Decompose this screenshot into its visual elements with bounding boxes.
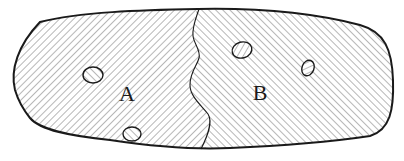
- region-b-label: B: [253, 82, 268, 104]
- region-a-label: A: [119, 83, 135, 105]
- inclusion-a-2: [123, 127, 141, 141]
- inclusion-a-1: [83, 67, 103, 83]
- region-a: [0, 0, 210, 161]
- diagram-svg: [0, 0, 404, 161]
- diagram-stage: A B: [0, 0, 404, 161]
- region-b: [190, 0, 404, 161]
